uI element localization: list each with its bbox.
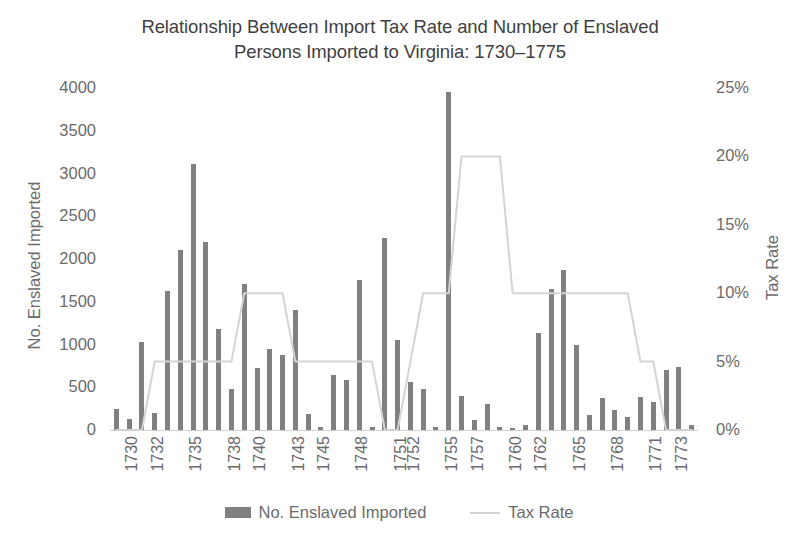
title-line-1: Relationship Between Import Tax Rate and… (70, 14, 730, 39)
x-tick-1735: 1735 (187, 436, 205, 472)
x-tick-1732: 1732 (149, 436, 167, 472)
x-tick-1748: 1748 (353, 436, 371, 472)
y-left-tick-500: 500 (36, 378, 96, 395)
x-tick-1743: 1743 (290, 436, 308, 472)
x-tick-1768: 1768 (609, 436, 627, 472)
y-right-tick-20pct: 20% (716, 147, 776, 164)
y-left-tick-0: 0 (36, 421, 96, 438)
plot-area (110, 88, 698, 430)
legend-label-tax-rate: Tax Rate (508, 503, 573, 522)
x-tick-1740: 1740 (251, 436, 269, 472)
chart-legend: No. Enslaved Imported Tax Rate (0, 503, 798, 522)
tax-rate-path (116, 156, 691, 430)
legend-label-enslaved: No. Enslaved Imported (259, 503, 427, 522)
y-left-tick-1500: 1500 (36, 293, 96, 310)
page-title: Relationship Between Import Tax Rate and… (70, 14, 730, 64)
y-left-tick-1000: 1000 (36, 336, 96, 353)
y-axis-left-ticks: 40003500300025002000150010005000 (36, 0, 96, 547)
y-left-tick-2500: 2500 (36, 207, 96, 224)
line-series-layer (110, 88, 698, 430)
y-right-tick-0pct: 0% (716, 421, 776, 438)
y-left-tick-3500: 3500 (36, 122, 96, 139)
bar-swatch-icon (225, 507, 251, 518)
x-tick-1738: 1738 (226, 436, 244, 472)
y-left-tick-4000: 4000 (36, 79, 96, 96)
x-axis-baseline (110, 430, 698, 431)
x-axis-ticks: 1730173217351738174017431745174817511752… (110, 432, 698, 494)
x-tick-1765: 1765 (571, 436, 589, 472)
x-tick-1762: 1762 (532, 436, 550, 472)
y-right-tick-5pct: 5% (716, 353, 776, 370)
y-axis-right-ticks: 25%20%15%10%5%0% (716, 0, 776, 547)
title-line-2: Persons Imported to Virginia: 1730–1775 (70, 39, 730, 64)
y-left-tick-3000: 3000 (36, 165, 96, 182)
y-left-tick-2000: 2000 (36, 250, 96, 267)
legend-item-tax-rate: Tax Rate (470, 503, 573, 522)
chart-figure: Relationship Between Import Tax Rate and… (0, 0, 798, 547)
x-tick-1730: 1730 (123, 436, 141, 472)
legend-item-enslaved: No. Enslaved Imported (225, 503, 427, 522)
y-right-tick-10pct: 10% (716, 284, 776, 301)
x-tick-1771: 1771 (647, 436, 665, 472)
tax-rate-line (110, 88, 698, 430)
x-tick-1760: 1760 (507, 436, 525, 472)
line-swatch-icon (470, 512, 500, 514)
y-right-tick-25pct: 25% (716, 79, 776, 96)
x-tick-1755: 1755 (443, 436, 461, 472)
x-tick-1773: 1773 (673, 436, 691, 472)
x-tick-1752: 1752 (405, 436, 423, 472)
x-tick-1745: 1745 (315, 436, 333, 472)
y-right-tick-15pct: 15% (716, 216, 776, 233)
x-tick-1757: 1757 (469, 436, 487, 472)
